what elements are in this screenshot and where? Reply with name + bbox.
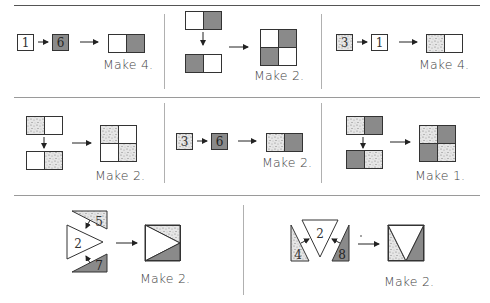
step-2-caption: Make 2. — [254, 68, 304, 83]
svg-text:3: 3 — [341, 36, 349, 50]
step-1-caption: Make 4. — [103, 57, 153, 72]
step-1-diagram: 1 6 — [0, 10, 170, 100]
top-rule — [14, 5, 480, 6]
svg-text:4: 4 — [294, 248, 302, 262]
svg-text:3: 3 — [181, 135, 189, 149]
step-3-diagram: 3 1 — [320, 10, 490, 100]
step-8-caption: Make 2. — [384, 274, 434, 289]
svg-text:7: 7 — [95, 259, 103, 273]
svg-text:1: 1 — [22, 36, 30, 50]
svg-text:5: 5 — [95, 215, 103, 229]
step-7-diagram: 5 2 7 — [0, 185, 245, 303]
svg-text:2: 2 — [316, 227, 324, 241]
svg-text:6: 6 — [57, 36, 65, 50]
svg-text:8: 8 — [338, 248, 346, 262]
step-8-diagram: 4 2 8 — [245, 185, 490, 303]
step-5-caption: Make 2. — [262, 155, 312, 170]
step-3-caption: Make 4. — [419, 57, 469, 72]
svg-text:6: 6 — [216, 135, 224, 149]
step-5-diagram: 3 6 — [160, 100, 330, 190]
svg-text:2: 2 — [74, 237, 82, 251]
step-6-caption: Make 1. — [415, 168, 465, 183]
step-7-caption: Make 2. — [140, 271, 190, 286]
step-4-caption: Make 2. — [95, 168, 145, 183]
svg-text:1: 1 — [376, 36, 384, 50]
step-2-diagram — [165, 10, 325, 100]
